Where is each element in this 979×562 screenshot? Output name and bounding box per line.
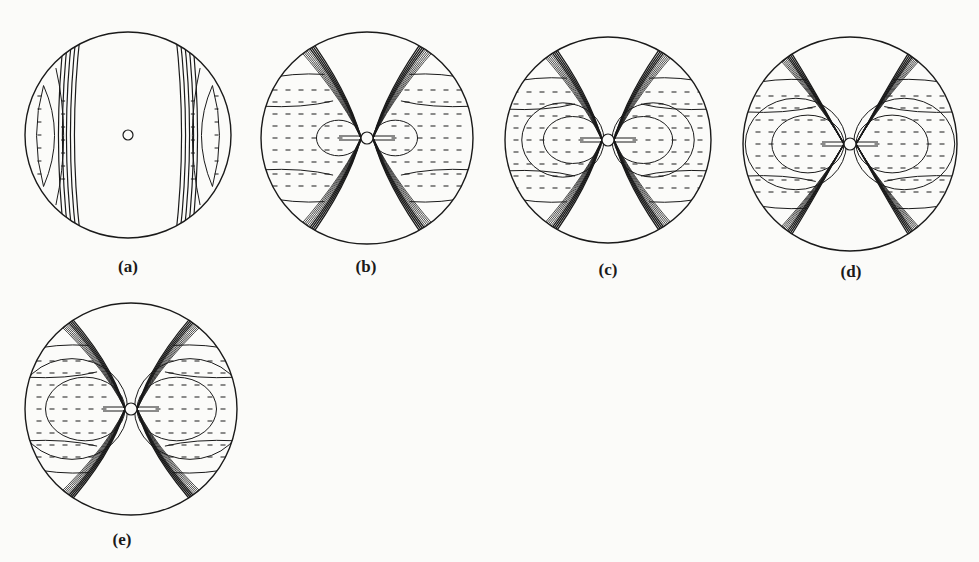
panel-d	[743, 37, 957, 251]
panel-label-a: (a)	[118, 257, 138, 277]
panel-c	[505, 37, 711, 243]
panel-label-c: (c)	[599, 260, 618, 280]
center-hole-a	[123, 130, 133, 140]
contour-figure: (a) (b) (c) (d) (e)	[0, 0, 979, 562]
panel-label-d: (d)	[841, 262, 862, 282]
panel-e	[16, 303, 245, 515]
panel-boundary-a	[25, 32, 231, 238]
panel-a	[25, 32, 231, 238]
contour-plots	[0, 0, 979, 562]
panel-b	[261, 32, 473, 244]
panel-label-b: (b)	[356, 257, 377, 277]
panel-label-e: (e)	[113, 530, 132, 550]
